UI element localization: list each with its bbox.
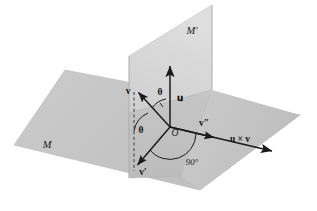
right-angle-label: 90° bbox=[186, 157, 199, 167]
vector-u-cross-v-label: u × v bbox=[230, 134, 250, 144]
vector-v-double-prime-label: v″ bbox=[199, 118, 209, 128]
vector-u-label: 𝐮 bbox=[177, 93, 183, 103]
vector-v-prime-label: v′ bbox=[139, 167, 147, 177]
theta-lower-label: θ bbox=[139, 125, 144, 135]
origin-label: O bbox=[172, 128, 179, 138]
plane-M-label: M bbox=[42, 139, 53, 150]
diagram-canvas: M M′ O 𝐮 v v′ v″ u × v θ θ 90° bbox=[0, 0, 317, 211]
plane-M-prime-label: M′ bbox=[185, 25, 198, 36]
vector-v-label: v bbox=[126, 86, 131, 96]
vector-diagram-figure: M M′ O 𝐮 v v′ v″ u × v θ θ 90° bbox=[0, 0, 317, 211]
theta-upper-label: θ bbox=[158, 87, 163, 97]
